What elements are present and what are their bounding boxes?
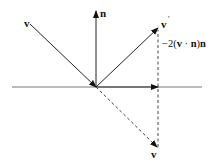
incident-vector-v xyxy=(30,24,96,87)
continued-vector-v-dashed xyxy=(96,87,157,147)
label-normal-n: n xyxy=(100,7,106,19)
reflection-diagram: v n v ' −2(v · n)n v xyxy=(0,0,214,166)
label-mirrored-v: v xyxy=(151,148,157,160)
label-reflected-v: v xyxy=(161,18,167,30)
reflected-vector-v-prime xyxy=(96,28,158,87)
label-incident-v: v xyxy=(24,17,30,29)
label-projection: −2(v · n)n xyxy=(162,38,206,50)
label-prime: ' xyxy=(168,15,170,24)
